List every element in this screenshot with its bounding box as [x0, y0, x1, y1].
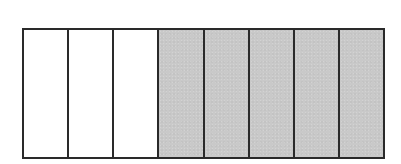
- unshaded-segment: [24, 30, 67, 157]
- unshaded-segment: [67, 30, 112, 157]
- fraction-bar: [22, 28, 385, 159]
- shaded-segment: [293, 30, 338, 157]
- shaded-segment: [157, 30, 202, 157]
- shaded-segment: [338, 30, 383, 157]
- shaded-segment: [203, 30, 248, 157]
- shaded-segment: [248, 30, 293, 157]
- unshaded-segment: [112, 30, 157, 157]
